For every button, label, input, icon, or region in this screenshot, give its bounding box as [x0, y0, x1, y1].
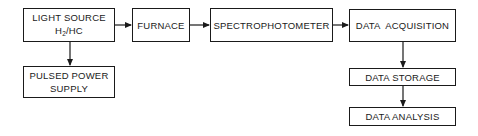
furnace-label: FURNACE: [137, 19, 184, 32]
light-source-hc: /HC: [66, 25, 83, 36]
furnace-box: FURNACE: [132, 8, 190, 42]
data-analysis-box: DATA ANALYSIS: [349, 107, 456, 126]
spectrophotometer-label: SPECTROPHOTOMETER: [213, 19, 329, 32]
data-analysis-label: DATA ANALYSIS: [366, 110, 440, 123]
pulsed-power-supply-box: PULSED POWER SUPPLY: [23, 66, 115, 98]
data-acquisition-label: DATA ACQUISITION: [356, 19, 449, 32]
data-acquisition-box: DATA ACQUISITION: [349, 9, 456, 42]
light-source-box: LIGHT SOURCE H2/HC: [23, 8, 115, 42]
data-storage-label: DATA STORAGE: [365, 71, 440, 84]
data-storage-box: DATA STORAGE: [349, 68, 456, 86]
pulsed-power-label-1: PULSED POWER: [30, 69, 109, 82]
light-source-label: LIGHT SOURCE: [32, 11, 106, 24]
spectrophotometer-box: SPECTROPHOTOMETER: [210, 8, 333, 42]
pulsed-power-label-2: SUPPLY: [50, 82, 88, 95]
light-source-type: H2/HC: [55, 24, 83, 40]
